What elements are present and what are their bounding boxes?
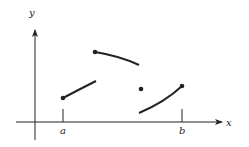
y-axis-label: y	[28, 7, 35, 18]
segment-1	[63, 81, 96, 98]
endpoint-dot	[61, 96, 66, 101]
endpoint-dot	[180, 84, 185, 89]
segment-3	[139, 86, 182, 113]
tick-label-b: b	[179, 125, 185, 136]
tick-label-a: a	[60, 125, 66, 136]
isolated-point	[139, 87, 144, 92]
segment-2	[95, 52, 139, 65]
endpoint-dot	[93, 50, 98, 55]
x-axis-label: x	[226, 117, 232, 128]
function-graph: y x a b	[0, 0, 249, 147]
